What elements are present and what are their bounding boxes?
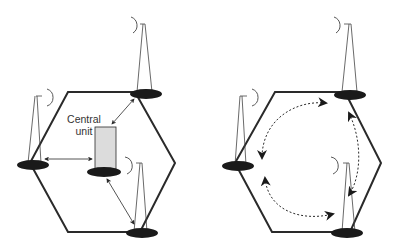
link-arrow-top-to-left (262, 103, 326, 158)
antenna-dish-icon (334, 17, 340, 33)
central-unit-label-line2: unit (62, 125, 106, 137)
base-station-platform (222, 161, 254, 171)
link-arrow-bottom (107, 179, 134, 224)
base-station-platform (130, 89, 162, 99)
right-panel-distributed (222, 17, 381, 238)
antenna-dish-icon (331, 157, 338, 174)
central-unit-label-line1: Central (62, 113, 106, 125)
antenna-dish-icon (252, 89, 258, 106)
link-arrow-bottom-to-left (265, 178, 333, 216)
cell-hexagon (235, 92, 381, 232)
central-unit-platform (87, 167, 121, 177)
base-station-platform (126, 228, 158, 238)
base-station-platform (17, 160, 49, 170)
base-station-bottom-right (125, 157, 158, 238)
base-station-top-right (334, 17, 366, 100)
link-arrow-left-to-top (262, 103, 326, 158)
diagram-canvas (0, 0, 394, 248)
central-unit-label: Central unit (62, 113, 106, 137)
base-station-platform (334, 90, 366, 100)
base-station-top-right (130, 17, 162, 99)
antenna-dish-icon (47, 89, 53, 106)
link-arrow-left-to-bottom (265, 178, 333, 216)
antenna-dish-icon (131, 17, 137, 33)
base-station-platform (331, 228, 363, 238)
antenna-dish-icon (125, 157, 132, 174)
link-arrow-top (112, 99, 134, 124)
